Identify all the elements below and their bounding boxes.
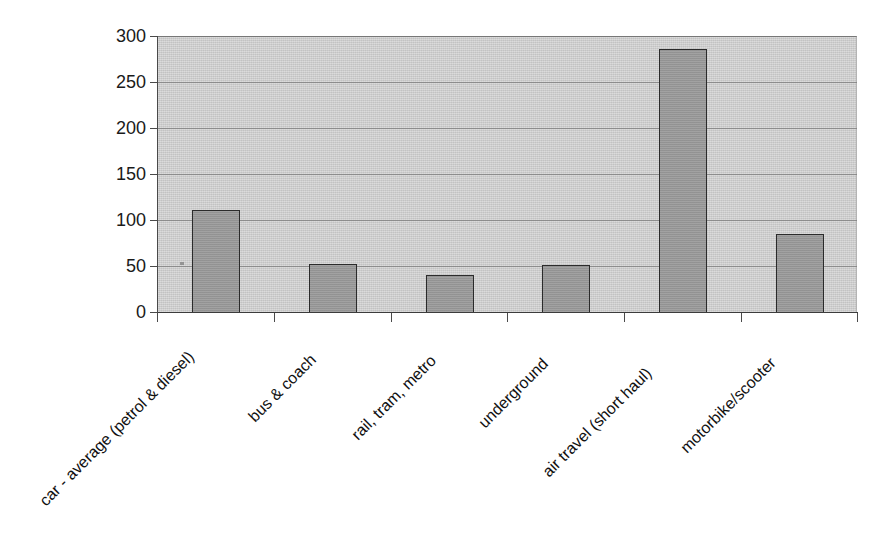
y-tick-label-100: 100 (102, 211, 146, 229)
x-tick-mark-2 (391, 313, 392, 322)
gridline-250 (158, 82, 857, 83)
y-tick-label-100-wrap: 100 (96, 211, 146, 229)
gridline-100 (158, 220, 857, 221)
category-label-air-travel-short-haul: air travel (short haul) (540, 365, 655, 480)
y-tick-label-250-wrap: 250 (96, 73, 146, 91)
bar-chart-figure: 300 250 200 150 100 50 0 car - average (… (0, 0, 878, 536)
y-tick-mark-50 (150, 266, 158, 267)
y-tick-label-150-wrap: 150 (96, 165, 146, 183)
y-tick-label-300-wrap: 300 (96, 27, 146, 45)
bar-motorbike-scooter (776, 234, 824, 313)
y-tick-label-0-wrap: 0 (96, 303, 146, 321)
bar-fill-texture (660, 50, 706, 312)
category-label-bus-and-coach: bus & coach (246, 351, 320, 425)
x-tick-mark-0 (157, 313, 158, 322)
category-label-car-average: car - average (petrol & diesel) (37, 349, 197, 509)
category-label-rail-tram-metro: rail, tram, metro (349, 352, 440, 443)
y-tick-label-250: 250 (102, 73, 146, 91)
y-tick-mark-300 (150, 36, 158, 37)
y-tick-label-150: 150 (102, 165, 146, 183)
y-tick-label-50-wrap: 50 (96, 257, 146, 275)
gridline-300 (158, 36, 857, 37)
x-tick-mark-4 (624, 313, 625, 322)
bar-underground (542, 265, 590, 313)
bar-fill-texture (777, 235, 823, 312)
scan-artifact-speck (180, 262, 184, 265)
y-tick-label-50: 50 (102, 257, 146, 275)
y-tick-label-200-wrap: 200 (96, 119, 146, 137)
y-tick-label-0: 0 (102, 303, 146, 321)
category-label-underground: underground (476, 356, 551, 431)
bar-fill-texture (310, 265, 356, 312)
y-tick-mark-150 (150, 174, 158, 175)
category-label-motorbike-scooter: motorbike/scooter (678, 355, 779, 456)
x-tick-mark-5 (741, 313, 742, 322)
gridline-50 (158, 266, 857, 267)
gridline-150 (158, 174, 857, 175)
x-tick-mark-3 (507, 313, 508, 322)
y-tick-label-300: 300 (102, 27, 146, 45)
bar-bus-and-coach (309, 264, 357, 313)
plot-area (158, 36, 857, 312)
gridline-200 (158, 128, 857, 129)
y-tick-label-200: 200 (102, 119, 146, 137)
bar-car-average (192, 210, 240, 313)
bar-rail-tram-metro (426, 275, 474, 313)
x-tick-mark-6 (857, 313, 858, 322)
bar-fill-texture (427, 276, 473, 312)
y-tick-mark-250 (150, 82, 158, 83)
y-tick-mark-100 (150, 220, 158, 221)
bar-air-travel-short-haul (659, 49, 707, 313)
y-tick-mark-200 (150, 128, 158, 129)
bar-fill-texture (543, 266, 589, 312)
bar-fill-texture (193, 211, 239, 312)
x-tick-mark-1 (274, 313, 275, 322)
